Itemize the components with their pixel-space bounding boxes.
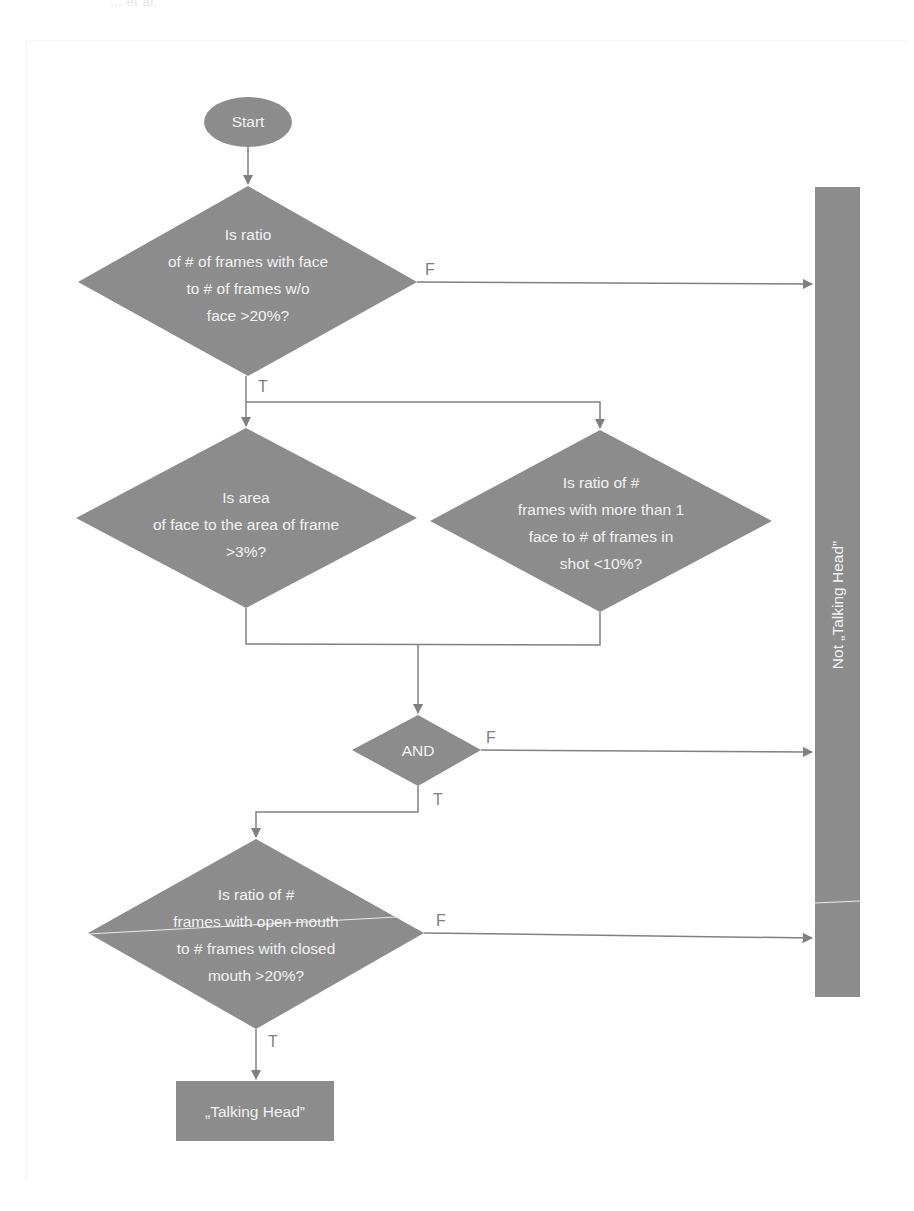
d1-line-3: to # of frames w/o bbox=[186, 280, 309, 297]
connector-d1-true-right bbox=[246, 402, 600, 428]
decision-multi-face: Is ratio of # frames with more than 1 fa… bbox=[430, 430, 772, 612]
d3-line-1: Is ratio of # bbox=[563, 474, 640, 491]
d1-false-label: F bbox=[425, 261, 435, 278]
d4-true-label: T bbox=[268, 1033, 278, 1050]
d1-line-2: of # of frames with face bbox=[168, 253, 328, 270]
connector-and-false bbox=[481, 750, 812, 752]
d1-line-4: face >20%? bbox=[207, 307, 290, 324]
d4-false-label: F bbox=[436, 912, 446, 929]
and-false-label: F bbox=[486, 729, 496, 746]
d3-line-3: face to # of frames in bbox=[529, 528, 674, 545]
start-node: Start bbox=[204, 97, 292, 147]
and-gate: AND bbox=[352, 715, 481, 786]
d1-line-1: Is ratio bbox=[225, 226, 272, 243]
connector-and-true bbox=[256, 786, 418, 837]
not-talking-head-result: Not „Talking Head” bbox=[815, 187, 860, 997]
d2-line-1: Is area bbox=[222, 489, 270, 506]
connector-d4-false bbox=[424, 933, 812, 938]
d4-line-3: to # frames with closed bbox=[177, 940, 336, 957]
d4-line-2: frames with open mouth bbox=[173, 913, 338, 930]
d2-line-2: of face to the area of frame bbox=[153, 516, 339, 533]
and-label: AND bbox=[402, 742, 435, 759]
d4-line-1: Is ratio of # bbox=[218, 886, 295, 903]
connector-merge bbox=[246, 608, 600, 645]
talking-head-result: „Talking Head” bbox=[176, 1081, 334, 1141]
d2-line-3: >3%? bbox=[226, 543, 266, 560]
d3-line-2: frames with more than 1 bbox=[518, 501, 684, 518]
flowchart: Start Is ratio of # of frames with face … bbox=[0, 0, 914, 1211]
decision-face-area: Is area of face to the area of frame >3%… bbox=[76, 428, 417, 608]
decision-open-mouth: Is ratio of # frames with open mouth to … bbox=[88, 839, 424, 1029]
talking-head-label: „Talking Head” bbox=[205, 1103, 305, 1120]
start-label: Start bbox=[232, 113, 265, 130]
not-talking-head-label: Not „Talking Head” bbox=[829, 541, 846, 669]
d3-line-4: shot <10%? bbox=[560, 555, 643, 572]
d1-true-label: T bbox=[258, 378, 268, 395]
and-true-label: T bbox=[433, 791, 443, 808]
d4-line-4: mouth >20%? bbox=[208, 967, 304, 984]
connector-d1-false bbox=[417, 282, 812, 284]
decision-face-ratio: Is ratio of # of frames with face to # o… bbox=[78, 186, 417, 376]
